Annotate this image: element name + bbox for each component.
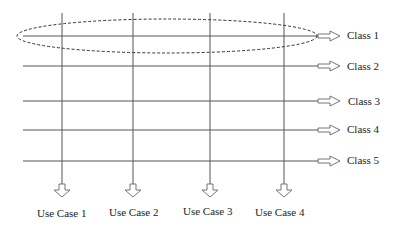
class-lines [23, 31, 340, 166]
down-arrow-icon [54, 184, 70, 197]
use-case-label-3: Use Case 3 [183, 205, 233, 217]
class-label-1: Class 1 [347, 29, 379, 41]
class-label-3: Class 3 [348, 95, 380, 107]
class-label-4: Class 4 [347, 123, 379, 135]
down-arrow-icon [125, 184, 141, 197]
right-arrow-icon [318, 125, 340, 135]
right-arrow-icon [318, 61, 340, 71]
use-case-label-1: Use Case 1 [37, 207, 87, 219]
down-arrow-icon [276, 184, 292, 197]
down-arrow-icon [202, 184, 218, 197]
traceability-diagram: Class 1 Class 2 Class 3 Class 4 Class 5 … [0, 0, 401, 229]
class-label-2: Class 2 [347, 60, 379, 72]
use-case-label-2: Use Case 2 [109, 206, 159, 218]
right-arrow-icon [318, 31, 340, 41]
diagram-lines [0, 0, 401, 229]
class-label-5: Class 5 [347, 154, 379, 166]
right-arrow-icon [318, 96, 340, 106]
use-case-lines [54, 13, 292, 197]
right-arrow-icon [318, 156, 340, 166]
use-case-label-4: Use Case 4 [255, 206, 305, 218]
